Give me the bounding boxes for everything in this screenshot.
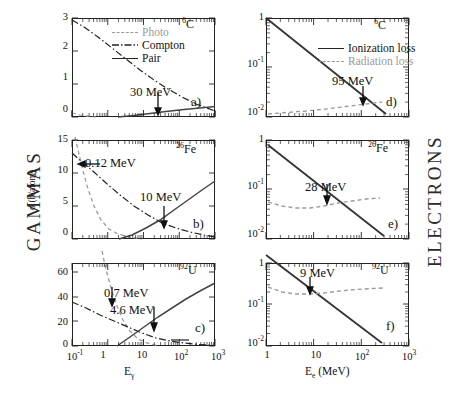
legend-label-photo: Photo — [142, 26, 169, 39]
electron-xaxis-title-unit: (MeV) — [318, 365, 349, 377]
legend-item-compton: Compton — [112, 39, 185, 52]
legend-item-radiation: Radiation loss — [318, 55, 415, 68]
panel-a-element-symbol: C — [186, 17, 194, 31]
panel-b-element: 26Fe — [176, 141, 196, 157]
figure-root: GAMMAS ELECTRONS 3 2 1 0 6C a) 30 MeV Ph… — [0, 0, 458, 404]
legend-key-compton-icon — [112, 45, 138, 46]
panel-b-annotation-012mev: 0.12 MeV — [85, 156, 136, 171]
panel-f-annotation-9mev: 9 MeV — [300, 266, 335, 281]
panel-b-ytick-2: 10 — [40, 164, 68, 175]
electron-xtick-1: 10 — [305, 349, 327, 360]
panel-c-annotation-46mev: 4.6 MeV — [110, 303, 154, 318]
panel-b-index: b) — [193, 216, 204, 232]
panel-c-ytick-1: 20 — [38, 316, 68, 327]
gamma-xaxis-title-sub: γ — [131, 371, 134, 380]
panel-e-ytick-0: 1 — [246, 133, 264, 144]
panel-c-element: 92U — [180, 262, 197, 278]
electron-xtick-2: 102 — [349, 348, 375, 362]
panel-d-ytick-1: 10-1 — [232, 55, 264, 69]
panel-c-index: c) — [195, 320, 205, 336]
panel-b-ytick-1: 5 — [40, 195, 68, 206]
panel-e-ytick-1: 10-1 — [232, 177, 264, 191]
panel-b-ytick-3: 15 — [40, 133, 68, 144]
panel-b-arrow-10 — [161, 206, 167, 228]
gamma-xtick-2: 10 — [131, 349, 153, 360]
legend-key-radiation-icon — [318, 61, 344, 63]
panel-c-element-symbol: U — [188, 263, 197, 277]
legend-item-pair: Pair — [112, 52, 185, 65]
panel-e-element: 26Fe — [368, 140, 388, 156]
panel-c-ytick-2: 40 — [38, 291, 68, 302]
panel-d-index: d) — [386, 94, 397, 110]
panel-d-ytick-0: 1 — [246, 11, 264, 22]
panel-e-element-z: 26 — [368, 140, 376, 149]
legend-key-photo-icon — [112, 32, 138, 34]
gamma-xaxis-title: Eγ — [124, 365, 134, 380]
gamma-xtick-1: 1 — [94, 349, 112, 360]
electrons-side-label: ELECTRONS — [424, 111, 446, 291]
legend-label-radiation: Radiation loss — [348, 55, 414, 68]
legend-label-pair: Pair — [142, 52, 161, 65]
electron-legend: Ionization loss Radiation loss — [318, 42, 415, 68]
panel-a-annotation-30mev: 30 MeV — [130, 85, 171, 100]
panel-a-ytick-0: 0 — [44, 103, 68, 114]
panel-a-ytick-1: 1 — [44, 71, 68, 82]
panel-f-ytick-1: 10-1 — [232, 295, 264, 309]
gamma-legend: Photo Compton Pair — [112, 26, 185, 65]
panel-b-element-symbol: Fe — [184, 142, 196, 156]
electron-xtick-0: 1 — [258, 349, 276, 360]
panel-f-ytick-0: 1 — [246, 257, 264, 268]
panel-e-ytick-2: 10-2 — [232, 225, 264, 239]
gamma-xaxis-title-main: E — [124, 365, 131, 377]
panel-d-ytick-2: 10-2 — [232, 103, 264, 117]
gamma-xtick-0: 10-1 — [58, 348, 92, 362]
panel-a-ytick-2: 2 — [44, 40, 68, 51]
panel-a-ytick-3: 3 — [44, 11, 68, 22]
panel-e-element-symbol: Fe — [376, 141, 388, 155]
panel-c-ytick-3: 60 — [38, 266, 68, 277]
legend-item-photo: Photo — [112, 26, 185, 39]
electron-xaxis-title: Ee (MeV) — [305, 365, 350, 380]
panel-b-element-z: 26 — [176, 141, 184, 150]
panel-c-element-z: 92 — [180, 262, 188, 271]
legend-label-ionization: Ionization loss — [348, 42, 415, 55]
legend-key-ionization-icon — [318, 48, 344, 50]
electron-xaxis-title-sub: e — [312, 371, 315, 380]
panel-e-index: e) — [388, 216, 398, 232]
panel-c-annotation-07mev: 0.7 MeV — [104, 286, 148, 301]
electron-xtick-3: 103 — [396, 348, 422, 362]
panel-a-index: a) — [191, 94, 201, 110]
legend-key-pair-icon — [112, 58, 138, 60]
gamma-yaxis-title: σ (b/atom) — [27, 150, 37, 230]
panel-b-ytick-0: 0 — [40, 226, 68, 237]
electron-xaxis-title-main: E — [305, 365, 312, 377]
panel-f-index: f) — [386, 318, 395, 334]
panel-f-element: 92U — [372, 262, 389, 278]
gamma-xtick-3: 102 — [168, 348, 194, 362]
panel-f-element-z: 92 — [372, 262, 380, 271]
panel-e-annotation-28mev: 28 MeV — [305, 180, 346, 195]
panel-f-element-symbol: U — [380, 263, 389, 277]
panel-d-element: 6C — [374, 17, 386, 33]
panel-b-annotation-10mev: 10 MeV — [140, 190, 181, 205]
legend-item-ionization: Ionization loss — [318, 42, 415, 55]
legend-label-compton: Compton — [142, 39, 185, 52]
gamma-xtick-4: 103 — [205, 348, 231, 362]
panel-d-element-symbol: C — [378, 18, 386, 32]
panel-f-ytick-2: 10-2 — [232, 334, 264, 348]
panel-d-annotation-95mev: 95 MeV — [332, 74, 373, 89]
